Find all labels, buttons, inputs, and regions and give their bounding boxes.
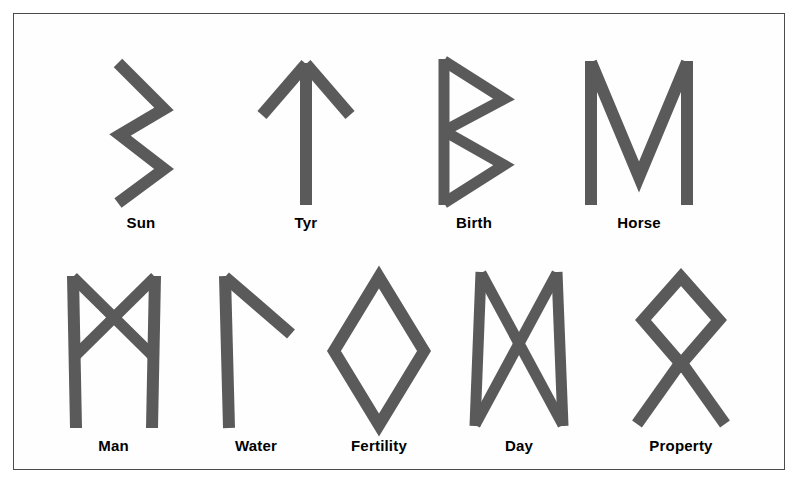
mannaz-man-rune-icon xyxy=(64,272,164,430)
ehwaz-horse-rune-icon xyxy=(582,57,696,207)
rune-label-sun: Sun xyxy=(127,214,156,231)
rune-label-fertility: Fertility xyxy=(351,437,407,454)
rune-cell-man: Man xyxy=(61,259,166,454)
rune-label-water: Water xyxy=(235,437,277,454)
othala-property-rune-icon xyxy=(631,272,731,430)
rune-cell-tyr: Tyr xyxy=(256,41,356,231)
laguz-water-rune-icon xyxy=(215,272,297,430)
ingwaz-fertility-rune-icon xyxy=(329,272,429,430)
rune-label-property: Property xyxy=(649,437,712,454)
rune-label-day: Day xyxy=(505,437,533,454)
rune-cell-day: Day xyxy=(464,259,574,454)
rune-cell-sun: Sun xyxy=(101,41,181,231)
rune-cell-fertility: Fertility xyxy=(319,259,439,454)
rune-chart: Sun Tyr xyxy=(0,0,802,493)
berkano-birth-rune-icon xyxy=(436,55,512,207)
rune-label-horse: Horse xyxy=(617,214,661,231)
rune-cell-birth: Birth xyxy=(429,41,519,231)
chart-frame-border: Sun Tyr xyxy=(13,13,785,470)
rune-cell-horse: Horse xyxy=(579,41,699,231)
rune-label-birth: Birth xyxy=(456,214,492,231)
dagaz-day-rune-icon xyxy=(469,268,569,430)
rune-cell-water: Water xyxy=(211,259,301,454)
rune-cell-property: Property xyxy=(621,259,741,454)
sowilo-sun-rune-icon xyxy=(110,57,172,207)
rune-label-tyr: Tyr xyxy=(295,214,318,231)
tiwaz-tyr-rune-icon xyxy=(257,57,355,207)
rune-label-man: Man xyxy=(98,437,129,454)
rune-grid: Sun Tyr xyxy=(14,14,784,469)
